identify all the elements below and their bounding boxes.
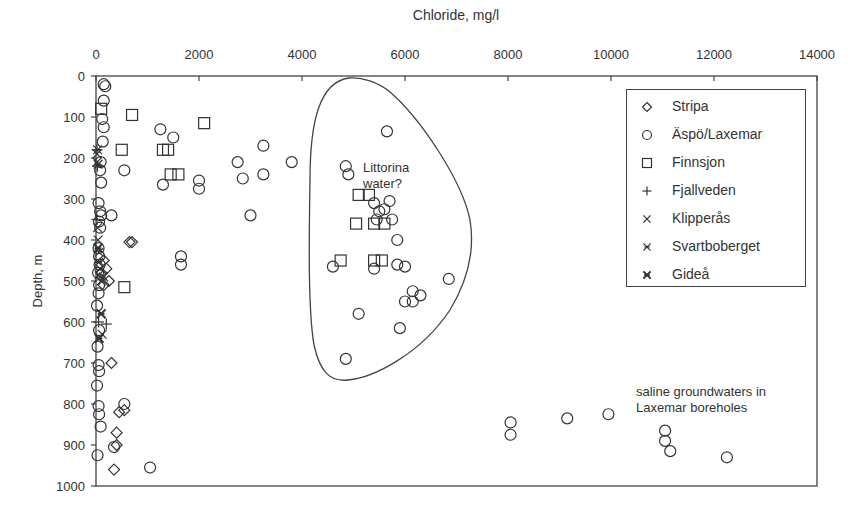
y-axis-title: Depth, m <box>30 255 45 308</box>
annotation-saline-line2: Laxemar boreholes <box>636 400 766 416</box>
svg-text:900: 900 <box>63 438 85 453</box>
svg-text:1000: 1000 <box>56 479 85 494</box>
x-marker-icon <box>639 211 655 227</box>
legend-label: Finnsjon <box>672 154 725 170</box>
legend-label: Gideå <box>672 266 709 282</box>
svg-text:4000: 4000 <box>288 47 317 62</box>
annotation-littorina: Littorina water? <box>363 160 409 192</box>
plus-marker-icon <box>639 183 655 199</box>
legend-label: Äspö/Laxemar <box>672 126 762 142</box>
legend-label: Stripa <box>672 98 709 114</box>
svg-text:200: 200 <box>63 151 85 166</box>
annotation-saline: saline groundwaters in Laxemar boreholes <box>636 384 766 416</box>
x-axis-title: Chloride, mg/l <box>413 7 499 23</box>
svg-text:8000: 8000 <box>494 47 523 62</box>
circle-marker-icon <box>639 127 655 143</box>
legend-item-klipperas: Klipperås <box>627 209 805 229</box>
annotation-saline-line1: saline groundwaters in <box>636 384 766 400</box>
asterisk-bold-marker-icon <box>639 267 655 283</box>
svg-text:600: 600 <box>63 315 85 330</box>
legend-label: Svartboberget <box>672 238 760 254</box>
svg-text:6000: 6000 <box>391 47 420 62</box>
svg-text:400: 400 <box>63 233 85 248</box>
legend: Stripa Äspö/Laxemar Finnsjon Fjallveden … <box>626 89 806 287</box>
legend-item-finnsjon: Finnsjon <box>627 153 805 173</box>
svg-text:14000: 14000 <box>799 47 835 62</box>
svg-text:12000: 12000 <box>696 47 732 62</box>
svg-text:800: 800 <box>63 397 85 412</box>
svg-text:10000: 10000 <box>593 47 629 62</box>
svg-text:0: 0 <box>92 47 99 62</box>
legend-item-gidea: Gideå <box>627 265 805 285</box>
svg-text:0: 0 <box>78 69 85 84</box>
svg-text:100: 100 <box>63 110 85 125</box>
square-marker-icon <box>639 155 655 171</box>
annotation-littorina-line2: water? <box>363 176 409 192</box>
annotation-littorina-line1: Littorina <box>363 160 409 176</box>
legend-item-aspo-laxemar: Äspö/Laxemar <box>627 125 805 145</box>
svg-text:300: 300 <box>63 192 85 207</box>
legend-item-svartboberget: Svartboberget <box>627 237 805 257</box>
legend-item-fjallveden: Fjallveden <box>627 181 805 201</box>
legend-label: Fjallveden <box>672 182 736 198</box>
svg-text:700: 700 <box>63 356 85 371</box>
diamond-marker-icon <box>639 99 655 115</box>
svg-text:500: 500 <box>63 274 85 289</box>
svg-text:2000: 2000 <box>185 47 214 62</box>
asterisk-marker-icon <box>639 239 655 255</box>
series-finnsjon <box>96 103 390 292</box>
legend-item-stripa: Stripa <box>627 97 805 117</box>
y-axis-ticks: 01002003004005006007008009001000 <box>56 69 96 494</box>
legend-label: Klipperås <box>672 210 730 226</box>
